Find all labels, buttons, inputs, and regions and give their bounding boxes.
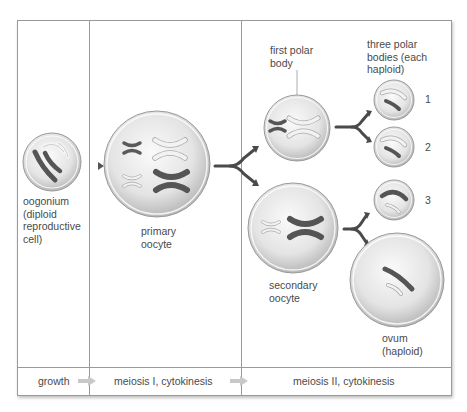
polar-body-number-3: 3 bbox=[425, 194, 431, 207]
secondary-oocyte-cell bbox=[248, 183, 338, 273]
primary-oocyte-label: primary oocyte bbox=[141, 225, 176, 250]
stage-arrow-icon bbox=[230, 376, 248, 386]
polar-body-3-cell bbox=[374, 180, 414, 220]
first-polar-body-label: first polar body bbox=[270, 44, 313, 69]
polar-body-number-1: 1 bbox=[425, 93, 431, 106]
ovum-cell bbox=[350, 233, 444, 327]
stage-arrow-icon bbox=[78, 376, 96, 386]
polar-bodies-label: three polar bodies (each haploid) bbox=[367, 38, 427, 76]
split-arrow-icon bbox=[336, 110, 372, 143]
stage-meiosis-2: meiosis II, cytokinesis bbox=[293, 374, 395, 388]
split-arrow-icon bbox=[215, 146, 259, 186]
polar-body-1-cell bbox=[374, 80, 414, 120]
polar-body-number-2: 2 bbox=[425, 141, 431, 154]
first-polar-body-cell bbox=[264, 70, 330, 161]
arrow-icon bbox=[84, 162, 104, 170]
stage-meiosis-1: meiosis I, cytokinesis bbox=[114, 374, 213, 388]
ovum-label: ovum (haploid) bbox=[382, 332, 423, 357]
polar-body-2-cell bbox=[374, 127, 414, 167]
oogonium-cell bbox=[23, 133, 81, 191]
oogonium-label: oogonium (diploid reproductive cell) bbox=[23, 195, 81, 245]
secondary-oocyte-label: secondary oocyte bbox=[269, 279, 317, 304]
split-arrow-icon bbox=[344, 212, 370, 246]
stage-growth: growth bbox=[38, 374, 70, 388]
primary-oocyte-cell bbox=[104, 111, 210, 217]
